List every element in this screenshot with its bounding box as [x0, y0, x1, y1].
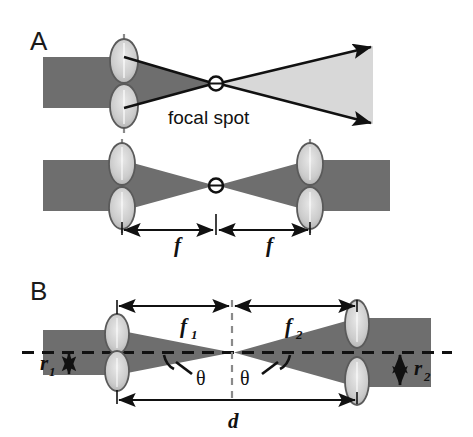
dim-label-f2-subscript: 2	[295, 327, 303, 342]
dim-label-f1: f	[180, 314, 189, 338]
panel-b-label: B	[30, 276, 47, 306]
focal-spot-label: focal spot	[168, 107, 250, 128]
dim-label-r1: r	[40, 351, 49, 375]
dim-label-f1-subscript: 1	[191, 327, 198, 342]
dim-label-f1-group: f 1	[180, 314, 198, 342]
converging-beam-a2	[122, 160, 215, 211]
dim-label-f2: f	[285, 314, 294, 338]
panel-a: A	[30, 26, 390, 257]
dim-label-r2: r	[414, 356, 423, 380]
angle-leader-right-b	[262, 362, 278, 374]
dim-label-r1-subscript: 1	[49, 364, 56, 379]
angle-label-left: θ	[196, 367, 206, 389]
panel-a-diagram-single-lens: focal spot	[43, 34, 373, 138]
figure-canvas: A	[0, 0, 473, 437]
dim-label-f-left: f	[174, 233, 183, 257]
optics-figure: A	[0, 0, 473, 437]
angle-label-right: θ	[240, 367, 250, 389]
converging-beam-b	[117, 330, 232, 375]
panel-b: B	[22, 276, 452, 433]
diverging-beam-a2	[217, 160, 310, 211]
dim-label-f-right: f	[266, 233, 275, 257]
angle-leader-left-b	[176, 362, 192, 374]
panel-a-diagram-two-lens: f f	[43, 139, 390, 257]
dim-label-d: d	[228, 409, 239, 433]
panel-a-label: A	[30, 26, 48, 56]
dim-label-r2-subscript: 2	[423, 369, 431, 384]
